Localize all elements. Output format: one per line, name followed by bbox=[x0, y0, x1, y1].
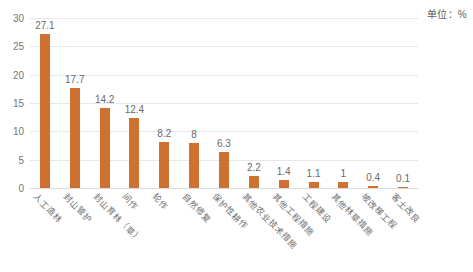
bar[interactable] bbox=[279, 180, 289, 188]
bar-slot: 8 bbox=[179, 18, 209, 188]
y-axis-tick-label: 5 bbox=[18, 154, 24, 165]
category-axis-labels: 人工造林封山管护封山育林（草）间作轮作自然修复保护性耕作其他农业技术措施其他工程… bbox=[30, 190, 418, 272]
bar[interactable] bbox=[159, 142, 169, 188]
bar-slot: 12.4 bbox=[120, 18, 150, 188]
bar[interactable] bbox=[398, 187, 408, 189]
y-axis-tick-label: 25 bbox=[13, 41, 24, 52]
bar-value-label: 1 bbox=[341, 168, 347, 179]
bar[interactable] bbox=[338, 182, 348, 188]
category-label: 间作 bbox=[121, 190, 143, 212]
plot-area: 051015202530 27.117.714.212.48.286.32.21… bbox=[30, 18, 418, 188]
gridline: 0 bbox=[30, 188, 418, 189]
bars-layer: 27.117.714.212.48.286.32.21.41.110.40.1 bbox=[30, 18, 418, 188]
bar-slot: 1.4 bbox=[269, 18, 299, 188]
bar-slot: 6.3 bbox=[209, 18, 239, 188]
category-label: 轮作 bbox=[151, 190, 173, 212]
bar-slot: 0.1 bbox=[388, 18, 418, 188]
bar[interactable] bbox=[189, 143, 199, 188]
category-label: 自然修复 bbox=[181, 190, 216, 225]
bar-value-label: 6.3 bbox=[217, 138, 231, 149]
bar[interactable] bbox=[70, 88, 80, 188]
bar-slot: 0.4 bbox=[358, 18, 388, 188]
bar-value-label: 0.1 bbox=[396, 173, 410, 184]
bar[interactable] bbox=[219, 152, 229, 188]
bar[interactable] bbox=[309, 182, 319, 188]
bar-slot: 14.2 bbox=[90, 18, 120, 188]
y-axis-tick-label: 30 bbox=[13, 13, 24, 24]
y-axis-tick-label: 10 bbox=[13, 126, 24, 137]
bar-value-label: 12.4 bbox=[125, 104, 144, 115]
bar[interactable] bbox=[100, 108, 110, 188]
bar-value-label: 14.2 bbox=[95, 94, 114, 105]
bar-chart: 单位：% 051015202530 27.117.714.212.48.286.… bbox=[0, 0, 473, 272]
category-label: 封山管护 bbox=[61, 190, 96, 225]
bar-value-label: 2.2 bbox=[247, 162, 261, 173]
category-label: 人工造林 bbox=[31, 190, 66, 225]
y-axis-tick-label: 15 bbox=[13, 98, 24, 109]
bar[interactable] bbox=[129, 118, 139, 188]
y-axis-tick-label: 0 bbox=[18, 183, 24, 194]
bar[interactable] bbox=[249, 176, 259, 188]
bar-slot: 2.2 bbox=[239, 18, 269, 188]
bar-value-label: 1.1 bbox=[307, 168, 321, 179]
bar-value-label: 27.1 bbox=[35, 20, 54, 31]
bar-value-label: 1.4 bbox=[277, 166, 291, 177]
bar[interactable] bbox=[40, 34, 50, 188]
bar-slot: 17.7 bbox=[60, 18, 90, 188]
bar-slot: 1 bbox=[328, 18, 358, 188]
bar-value-label: 8.2 bbox=[157, 128, 171, 139]
bar-slot: 8.2 bbox=[149, 18, 179, 188]
bar-value-label: 0.4 bbox=[366, 172, 380, 183]
y-axis-tick-label: 20 bbox=[13, 69, 24, 80]
bar-slot: 27.1 bbox=[30, 18, 60, 188]
bar-slot: 1.1 bbox=[299, 18, 329, 188]
bar[interactable] bbox=[368, 186, 378, 188]
bar-value-label: 17.7 bbox=[65, 74, 84, 85]
bar-value-label: 8 bbox=[191, 129, 197, 140]
unit-caption: 单位：% bbox=[427, 6, 467, 21]
